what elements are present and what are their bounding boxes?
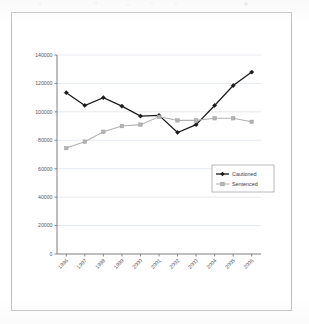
y-tick-label: 100000	[35, 109, 52, 115]
chart-frame: 020000400006000080000100000120000140000 …	[11, 12, 292, 311]
legend-label-sentenced: Sentenced	[232, 181, 258, 187]
legend-border	[212, 165, 274, 192]
x-tick-label: 1999	[112, 257, 124, 269]
series-line	[66, 117, 251, 148]
x-tick-label: 2003	[187, 257, 199, 269]
x-tick-label: 2004	[205, 257, 217, 269]
data-point	[120, 124, 124, 128]
legend-label-cautioned: Cautioned	[232, 171, 257, 177]
series-line	[66, 72, 251, 132]
data-point	[101, 96, 105, 100]
chart-legend: CautionedSentenced	[212, 165, 274, 192]
data-point	[102, 130, 106, 134]
y-tick-label: 0	[50, 251, 53, 257]
data-point	[64, 146, 68, 150]
y-tick-label: 80000	[38, 137, 53, 143]
y-tick-label: 140000	[35, 52, 52, 58]
scan-artifact-band	[0, 0, 309, 12]
y-tick-label: 40000	[38, 194, 53, 200]
x-tick-label: 1998	[94, 257, 106, 269]
x-tick-label: 2006	[242, 257, 254, 269]
data-point	[139, 123, 143, 127]
data-point	[157, 115, 161, 119]
y-axis-tick-labels: 020000400006000080000100000120000140000	[35, 52, 52, 257]
y-tick-label: 120000	[35, 80, 52, 86]
x-tick-label: 2002	[168, 257, 180, 269]
y-tick-label: 60000	[38, 166, 53, 172]
series-layer	[64, 70, 254, 150]
x-tick-label: 1996	[57, 257, 69, 269]
data-point	[213, 116, 217, 120]
series-cautioned	[64, 70, 254, 135]
x-tick-label: 2000	[131, 257, 143, 269]
y-tick-label: 20000	[38, 222, 53, 228]
data-point	[176, 119, 180, 123]
x-tick-label: 2001	[149, 257, 161, 269]
data-point	[83, 140, 87, 144]
legend-marker	[221, 182, 225, 186]
x-tick-label: 1997	[75, 257, 87, 269]
x-axis-category-labels: 1996199719981999200020012002200320042005…	[57, 257, 255, 269]
data-point	[194, 119, 198, 123]
line-chart: 020000400006000080000100000120000140000 …	[12, 13, 291, 310]
series-sentenced	[64, 115, 253, 150]
data-point	[231, 116, 235, 120]
x-tick-label: 2005	[224, 257, 236, 269]
data-point	[250, 120, 254, 124]
